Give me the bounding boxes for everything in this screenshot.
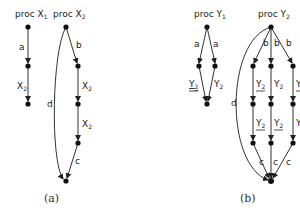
edge-label: c [75,156,80,166]
proc-x1-title: proc X1 [15,9,48,20]
node [196,63,201,68]
proc-y1-graph: proc Y1 a a Y2 Y2 [188,9,226,107]
figure-b: proc Y1 a a Y2 Y2 proc Y2 [188,9,300,205]
edge-label: a [194,39,200,49]
node [268,63,273,68]
node [250,63,255,68]
edge-label: X2 [17,81,27,92]
edge-label: Y2 [273,79,284,90]
node [75,140,80,145]
node [290,63,295,68]
proc-y2-graph: proc Y2 [231,9,300,184]
edge-label: a [213,39,219,49]
edge-label: b [274,38,280,48]
node [25,63,30,68]
node [250,101,255,106]
edge-label: b [76,40,82,50]
edge-label: Y2 [213,79,224,90]
process-graphs-diagram: proc X1 a X2 proc X2 b X2 X2 c [0,0,300,215]
node [25,101,30,106]
edge-y2-underlined [199,66,206,101]
node [204,101,209,106]
proc-x2-graph: proc X2 b X2 X2 c d [47,9,92,184]
node [268,101,273,106]
edge-label: c [273,157,278,167]
caption-b: (b) [240,192,256,205]
edge-label: c [259,157,264,167]
node [268,24,273,29]
proc-y2-title: proc Y2 [258,9,290,20]
node [25,24,30,29]
proc-y1-title: proc Y1 [194,9,226,20]
node [63,24,68,29]
proc-x1-graph: proc X1 a X2 [15,9,48,107]
node [290,101,295,106]
node [75,63,80,68]
node [290,140,295,145]
edge-label: X2 [82,81,92,92]
proc-x2-title: proc X2 [53,9,86,20]
edge-d [54,27,66,179]
edge-label: c [286,157,291,167]
edge-label: Y [295,79,300,89]
edge-label: Y2 [273,118,284,129]
edge-label: a [19,42,25,52]
node [204,24,209,29]
edge-label: Y [295,118,300,128]
figure-a: proc X1 a X2 proc X2 b X2 X2 c [15,9,92,205]
node [250,140,255,145]
node [212,63,217,68]
edge-label: d [47,99,53,109]
node [63,178,68,183]
edge-label: Y2 [255,118,266,129]
caption-a: (a) [44,192,59,205]
edge-label: b [286,38,292,48]
edge-label: Y2 [188,79,199,90]
node [268,140,273,145]
edge-label: b [263,38,269,48]
node [268,178,274,184]
edge-a [199,27,207,63]
edge-label: X2 [82,119,92,130]
node [75,101,80,106]
edge-label: Y2 [255,79,266,90]
edge-label: d [231,98,237,108]
